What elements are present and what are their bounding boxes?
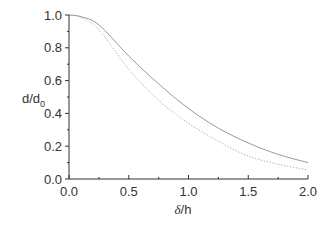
x-tick-label: 1.5 — [239, 184, 257, 199]
y-tick-label: 0.6 — [44, 73, 62, 88]
series-line-dotted — [69, 15, 308, 170]
y-axis-label: d/d0 — [22, 91, 45, 109]
x-tick-label: 2.0 — [299, 184, 317, 199]
axes — [69, 15, 308, 179]
x-axis-label: δ/h — [175, 202, 192, 217]
y-tick-label: 0.4 — [44, 106, 62, 121]
plot-lines — [69, 15, 308, 170]
y-tick-label: 0.2 — [44, 139, 62, 154]
series-line-solid — [69, 15, 308, 163]
x-tick-label: 0.5 — [120, 184, 138, 199]
x-tick-label: 0.0 — [60, 184, 78, 199]
x-tick-label: 1.0 — [179, 184, 197, 199]
y-tick-label: 0.8 — [44, 40, 62, 55]
tick-labels: 0.00.20.40.60.81.00.00.51.01.52.0 — [44, 8, 317, 200]
line-chart: 0.00.20.40.60.81.00.00.51.01.52.0 d/d0 δ… — [0, 0, 332, 229]
y-tick-label: 1.0 — [44, 8, 62, 23]
ticks — [65, 15, 308, 179]
